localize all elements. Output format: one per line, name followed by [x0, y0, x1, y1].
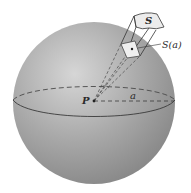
center-point [93, 100, 96, 103]
label-radius: a [130, 90, 136, 101]
sphere [13, 22, 175, 184]
label-surface: S [145, 15, 152, 26]
sphere-diagram: P a S S(a) [0, 0, 191, 193]
label-center: P [81, 95, 90, 106]
projection-dot [131, 48, 133, 50]
label-projection: S(a) [162, 39, 182, 50]
